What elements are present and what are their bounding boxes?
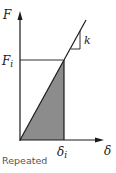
diagram-caption: Repeated [2,155,47,166]
y-axis-label: F [2,8,12,22]
force-level-label: Fi [1,54,13,69]
x-axis-label: δ [104,144,111,158]
slope-label: k [84,34,91,47]
displacement-level-label: δi [57,145,67,160]
force-displacement-diagram: F Fi k δi δ [0,0,116,173]
x-axis-arrow-icon [95,138,104,143]
y-axis-arrow-icon [18,11,23,20]
